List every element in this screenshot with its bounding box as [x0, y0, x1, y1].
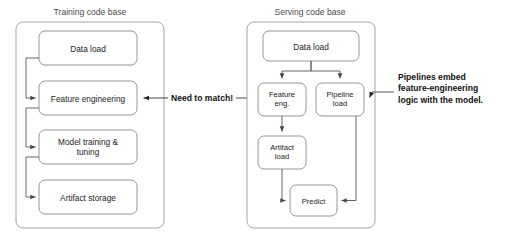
- need-to-match-label: Need to match!: [171, 93, 233, 103]
- label-serve-pipeline-load-line2: load: [333, 99, 347, 108]
- serving-panel-title: Serving code base: [274, 7, 345, 17]
- label-train-feature-engineering: Feature engineering: [51, 94, 126, 104]
- label-train-model-training-line2: tuning: [77, 147, 100, 157]
- callout-line-3: logic with the model.: [398, 95, 504, 106]
- callout-line-2: feature-engineering: [398, 83, 504, 94]
- callout-line-1: Pipelines embed: [398, 72, 504, 83]
- label-serve-pipeline-load-line1: Pipeline: [326, 90, 353, 99]
- label-train-artifact-storage: Artifact storage: [60, 193, 116, 203]
- label-serve-artifact-load-line2: load: [275, 152, 289, 161]
- diagram-svg: Training code base Serving code base Dat…: [0, 0, 506, 244]
- label-train-data-load: Data load: [70, 44, 106, 54]
- label-serve-predict: Predict: [302, 197, 327, 206]
- label-serve-artifact-load-line1: Artifact: [270, 143, 295, 152]
- label-serve-data-load: Data load: [293, 42, 329, 52]
- training-panel-title: Training code base: [54, 7, 127, 17]
- callout-annotation: Pipelines embed feature-engineering logi…: [398, 72, 504, 106]
- label-serve-feature-eng-line2: eng.: [275, 99, 290, 108]
- label-serve-feature-eng-line1: Feature: [269, 90, 295, 99]
- diagram-canvas: Training code base Serving code base Dat…: [0, 0, 506, 244]
- label-train-model-training-line1: Model training &: [58, 137, 118, 147]
